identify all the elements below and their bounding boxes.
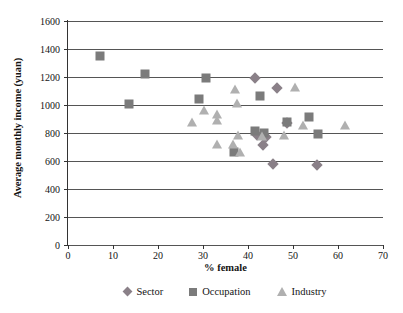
y-tick-label: 1000 bbox=[20, 100, 60, 111]
gridline bbox=[68, 105, 383, 106]
data-point-sector bbox=[272, 82, 283, 93]
legend-label: Occupation bbox=[202, 286, 250, 297]
x-tick-label: 40 bbox=[233, 250, 263, 261]
y-tick-label: 1600 bbox=[20, 16, 60, 27]
data-point-industry bbox=[298, 120, 308, 129]
x-tick-mark bbox=[338, 245, 339, 249]
data-point-sector bbox=[249, 73, 260, 84]
x-tick-mark bbox=[293, 245, 294, 249]
y-tick-label: 0 bbox=[20, 240, 60, 251]
data-point-industry bbox=[187, 117, 197, 126]
gridline bbox=[68, 49, 383, 50]
data-point-industry bbox=[199, 105, 209, 114]
y-tick-label: 600 bbox=[20, 156, 60, 167]
x-tick-label: 10 bbox=[98, 250, 128, 261]
data-point-occupation bbox=[313, 129, 322, 138]
data-point-industry bbox=[290, 82, 300, 91]
gridline bbox=[68, 217, 383, 218]
y-tick-label: 800 bbox=[20, 128, 60, 139]
data-point-industry bbox=[212, 115, 222, 124]
x-axis-line bbox=[68, 245, 383, 246]
y-tick-mark bbox=[64, 21, 68, 22]
x-tick-label: 60 bbox=[323, 250, 353, 261]
x-tick-label: 20 bbox=[143, 250, 173, 261]
y-tick-label: 400 bbox=[20, 184, 60, 195]
gridline bbox=[68, 189, 383, 190]
x-tick-label: 50 bbox=[278, 250, 308, 261]
legend-item-industry[interactable]: Industry bbox=[277, 286, 327, 297]
y-tick-mark bbox=[64, 105, 68, 106]
chart-legend: SectorOccupationIndustry bbox=[68, 286, 383, 297]
triangle-icon bbox=[277, 287, 287, 296]
data-point-industry bbox=[279, 131, 289, 140]
x-axis-title: % female bbox=[68, 262, 383, 273]
data-point-occupation bbox=[282, 117, 291, 126]
data-point-occupation bbox=[201, 73, 210, 82]
data-point-industry bbox=[212, 139, 222, 148]
x-tick-label: 0 bbox=[53, 250, 83, 261]
diamond-icon bbox=[123, 287, 133, 297]
data-point-occupation bbox=[140, 69, 149, 78]
y-tick-label: 1200 bbox=[20, 72, 60, 83]
legend-item-occupation[interactable]: Occupation bbox=[189, 286, 250, 297]
scatter-chart: Average monthly income (yuan) 0200400600… bbox=[0, 0, 403, 313]
data-point-occupation bbox=[255, 91, 264, 100]
x-tick-mark bbox=[113, 245, 114, 249]
gridline bbox=[68, 77, 383, 78]
data-point-industry bbox=[235, 148, 245, 157]
data-point-industry bbox=[230, 84, 240, 93]
y-tick-label: 1400 bbox=[20, 44, 60, 55]
data-point-industry bbox=[340, 120, 350, 129]
square-icon bbox=[189, 288, 197, 296]
x-tick-label: 30 bbox=[188, 250, 218, 261]
data-point-industry bbox=[233, 131, 243, 140]
x-tick-mark bbox=[203, 245, 204, 249]
gridline bbox=[68, 161, 383, 162]
y-tick-mark bbox=[64, 133, 68, 134]
legend-item-sector[interactable]: Sector bbox=[124, 286, 163, 297]
data-point-occupation bbox=[124, 99, 133, 108]
legend-label: Industry bbox=[292, 286, 327, 297]
x-tick-mark bbox=[68, 245, 69, 249]
data-point-industry bbox=[232, 98, 242, 107]
data-point-occupation bbox=[96, 52, 105, 61]
gridline bbox=[68, 133, 383, 134]
y-tick-mark bbox=[64, 161, 68, 162]
y-tick-mark bbox=[64, 189, 68, 190]
legend-label: Sector bbox=[136, 286, 163, 297]
x-tick-mark bbox=[248, 245, 249, 249]
gridline bbox=[68, 21, 383, 22]
y-tick-mark bbox=[64, 217, 68, 218]
y-tick-mark bbox=[64, 77, 68, 78]
data-point-occupation bbox=[194, 94, 203, 103]
x-tick-label: 70 bbox=[368, 250, 398, 261]
data-point-industry bbox=[257, 131, 267, 140]
plot-area: 02004006008001000120014001600 0102030405… bbox=[68, 21, 383, 245]
y-tick-mark bbox=[64, 49, 68, 50]
x-tick-mark bbox=[383, 245, 384, 249]
y-tick-label: 200 bbox=[20, 212, 60, 223]
x-tick-mark bbox=[158, 245, 159, 249]
